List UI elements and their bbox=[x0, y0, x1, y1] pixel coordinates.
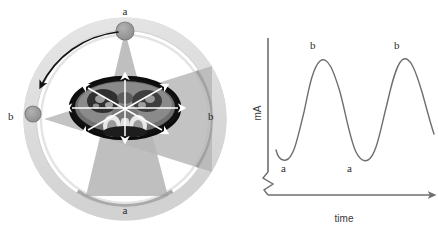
gantry-panel: a a b b bbox=[0, 0, 250, 234]
xray-tube-position-b bbox=[25, 106, 41, 122]
tube-current-chart bbox=[250, 0, 438, 234]
axis-break-zigzag-icon bbox=[263, 172, 273, 195]
gantry-label-a-top: a bbox=[0, 6, 250, 17]
y-axis-label: mA bbox=[253, 93, 263, 133]
plot-panel: b b a a time mA bbox=[250, 0, 438, 234]
gantry-label-a-bottom: a bbox=[0, 205, 250, 216]
plot-label-peak-2: b bbox=[394, 40, 400, 51]
tube-current-curve bbox=[276, 59, 434, 161]
gantry-label-b-right: b bbox=[208, 111, 214, 122]
xray-tube-position-a bbox=[116, 22, 134, 40]
plot-label-trough-1: a bbox=[281, 163, 286, 174]
y-axis bbox=[263, 38, 273, 195]
figure-container: a a b b b b bbox=[0, 0, 438, 234]
gantry-label-b-left: b bbox=[8, 111, 14, 122]
plot-label-peak-1: b bbox=[310, 40, 316, 51]
plot-label-trough-2: a bbox=[347, 163, 352, 174]
x-axis-label: time bbox=[250, 214, 438, 224]
